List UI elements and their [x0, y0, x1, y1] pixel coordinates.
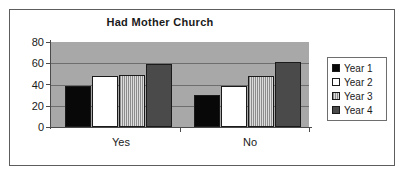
legend-swatch-icon [332, 64, 340, 72]
legend-item-year-4: Year 4 [332, 103, 382, 117]
legend-swatch-icon [332, 92, 340, 100]
legend-swatch-icon [332, 106, 340, 114]
chart-frame: Had Mother Church 80 60 40 20 0 Yes No [9, 9, 395, 166]
bar-group-no [194, 42, 306, 127]
legend-label: Year 3 [344, 91, 373, 102]
bar-no-year-3 [248, 76, 274, 127]
y-axis-tick-label: 60 [12, 57, 44, 69]
legend-item-year-1: Year 1 [332, 61, 382, 75]
bar-no-year-1 [194, 95, 220, 127]
legend-label: Year 1 [344, 63, 373, 74]
legend-swatch-icon [332, 78, 340, 86]
y-axis-line [50, 40, 51, 129]
bar-no-year-4 [275, 62, 301, 127]
x-axis-category-label-yes: Yes [91, 136, 151, 148]
y-axis-tick-label: 80 [12, 36, 44, 48]
plot-area [51, 42, 309, 127]
bar-no-year-2 [221, 86, 247, 127]
y-axis-tick-label: 0 [12, 121, 44, 133]
x-axis-tick [309, 127, 310, 132]
legend-item-year-2: Year 2 [332, 75, 382, 89]
legend-label: Year 4 [344, 105, 373, 116]
bar-yes-year-1 [65, 86, 91, 127]
x-axis-category-label-no: No [220, 136, 280, 148]
bar-yes-year-2 [92, 76, 118, 127]
x-axis-line [46, 127, 312, 128]
legend-label: Year 2 [344, 77, 373, 88]
bar-yes-year-3 [119, 75, 145, 127]
x-axis-tick [180, 127, 181, 132]
chart-legend: Year 1 Year 2 Year 3 Year 4 [327, 57, 387, 121]
bar-yes-year-4 [146, 64, 172, 127]
chart-title: Had Mother Church [10, 16, 310, 28]
bar-group-yes [65, 42, 177, 127]
y-axis-tick-label: 40 [12, 79, 44, 91]
legend-item-year-3: Year 3 [332, 89, 382, 103]
y-axis-tick-label: 20 [12, 100, 44, 112]
y-axis-labels: 80 60 40 20 0 [10, 10, 44, 165]
